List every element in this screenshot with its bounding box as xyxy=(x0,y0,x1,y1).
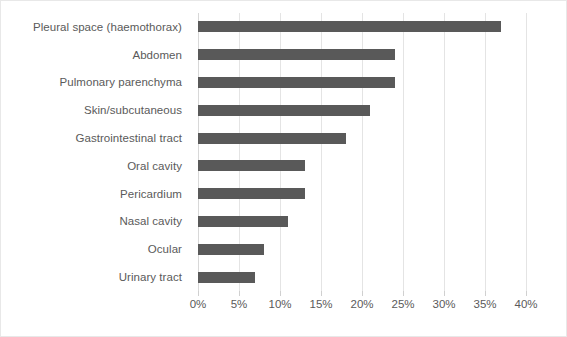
bar-row xyxy=(198,180,526,208)
bars-layer xyxy=(198,13,526,291)
category-label-row: Pulmonary parenchyma xyxy=(1,69,191,97)
bar xyxy=(198,160,305,171)
category-label-row: Pericardium xyxy=(1,180,191,208)
axis-tick-label: 35% xyxy=(473,298,496,310)
category-label-row: Skin/subcutaneous xyxy=(1,96,191,124)
category-label: Nasal cavity xyxy=(119,215,182,227)
plot-area xyxy=(198,13,526,291)
axis-tick-label: 10% xyxy=(268,298,291,310)
bar xyxy=(198,244,264,255)
category-label: Pulmonary parenchyma xyxy=(60,76,182,88)
bar xyxy=(198,133,346,144)
gridline xyxy=(526,13,527,291)
category-label-row: Nasal cavity xyxy=(1,208,191,236)
category-label-row: Gastrointestinal tract xyxy=(1,124,191,152)
category-label-row: Ocular xyxy=(1,235,191,263)
category-label: Ocular xyxy=(148,243,182,255)
category-label: Gastrointestinal tract xyxy=(75,132,182,144)
axis-tick-mark xyxy=(239,291,240,296)
bar xyxy=(198,105,370,116)
axis-tick-mark xyxy=(526,291,527,296)
category-label-row: Oral cavity xyxy=(1,152,191,180)
axis-tick-mark xyxy=(280,291,281,296)
category-label-row: Pleural space (haemothorax) xyxy=(1,13,191,41)
axis-tick-label: 30% xyxy=(432,298,455,310)
category-label: Abdomen xyxy=(132,49,182,61)
category-label: Pericardium xyxy=(120,188,182,200)
bar-row xyxy=(198,152,526,180)
axis-tick-label: 15% xyxy=(309,298,332,310)
bar-row xyxy=(198,96,526,124)
axis-tick-mark xyxy=(321,291,322,296)
bar xyxy=(198,188,305,199)
axis-tick-mark xyxy=(362,291,363,296)
bar-chart: Pleural space (haemothorax)AbdomenPulmon… xyxy=(0,0,567,337)
axis-tick-label: 25% xyxy=(391,298,414,310)
bar-row xyxy=(198,69,526,97)
bar xyxy=(198,216,288,227)
bar-row xyxy=(198,41,526,69)
category-label: Skin/subcutaneous xyxy=(84,104,182,116)
bar xyxy=(198,21,501,32)
bar xyxy=(198,49,395,60)
axis-tick-mark xyxy=(485,291,486,296)
value-axis: 0%5%10%15%20%25%30%35%40% xyxy=(198,291,526,321)
category-label: Urinary tract xyxy=(119,271,182,283)
bar-row xyxy=(198,263,526,291)
axis-tick-label: 0% xyxy=(190,298,207,310)
axis-tick-mark xyxy=(444,291,445,296)
category-axis: Pleural space (haemothorax)AbdomenPulmon… xyxy=(1,13,191,291)
category-label-row: Abdomen xyxy=(1,41,191,69)
axis-tick-label: 5% xyxy=(231,298,248,310)
axis-tick-mark xyxy=(198,291,199,296)
bar-row xyxy=(198,13,526,41)
axis-tick-mark xyxy=(403,291,404,296)
category-label: Oral cavity xyxy=(127,160,182,172)
category-label: Pleural space (haemothorax) xyxy=(33,21,182,33)
bar xyxy=(198,272,255,283)
bar xyxy=(198,77,395,88)
bar-row xyxy=(198,208,526,236)
bar-row xyxy=(198,235,526,263)
bar-row xyxy=(198,124,526,152)
category-label-row: Urinary tract xyxy=(1,263,191,291)
axis-tick-label: 40% xyxy=(514,298,537,310)
axis-tick-label: 20% xyxy=(350,298,373,310)
